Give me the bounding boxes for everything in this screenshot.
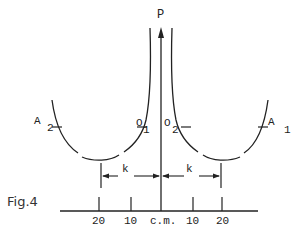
svg-text:k: k xyxy=(186,163,193,175)
svg-text:A: A xyxy=(268,116,275,128)
tick-label: 10 xyxy=(124,215,137,227)
right-curve xyxy=(171,28,268,160)
tick-label: c.m. xyxy=(150,215,176,227)
right-k-dimension: k xyxy=(162,163,220,179)
svg-text:A: A xyxy=(34,115,41,127)
svg-text:2: 2 xyxy=(172,124,179,136)
figure-caption: Fig.4 xyxy=(7,194,38,209)
arrow-left-icon xyxy=(162,174,169,179)
arrow-up-icon xyxy=(158,27,164,38)
point-label-o1: O 1 xyxy=(136,117,150,136)
left-curve xyxy=(52,28,151,160)
axis-label-p: P xyxy=(157,8,164,22)
tick-label: 20 xyxy=(216,215,229,227)
vertical-axis: P xyxy=(157,8,164,211)
svg-text:1: 1 xyxy=(284,124,291,136)
point-label-a2: A 2 xyxy=(34,115,54,134)
left-k-dimension: k xyxy=(102,163,160,179)
svg-text:O: O xyxy=(136,117,143,129)
arrow-right-icon xyxy=(153,174,160,179)
svg-text:2: 2 xyxy=(47,122,54,134)
distance-scale: 20 10 c.m. 10 20 xyxy=(60,197,258,227)
svg-text:k: k xyxy=(122,163,129,175)
svg-text:O: O xyxy=(164,117,171,129)
pendulum-period-diagram: P A 2 O 1 O 2 A 1 k xyxy=(0,0,299,228)
tick-label: 20 xyxy=(92,215,105,227)
arrow-left-icon xyxy=(102,174,109,179)
svg-text:1: 1 xyxy=(143,124,150,136)
point-label-a1: A 1 xyxy=(268,116,291,136)
arrow-right-icon xyxy=(213,174,220,179)
tick-label: 10 xyxy=(186,215,199,227)
